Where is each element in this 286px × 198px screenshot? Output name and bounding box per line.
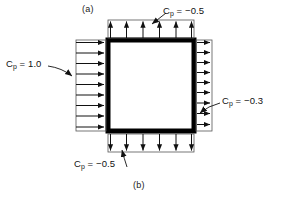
figure-canvas: (a) (b) Cp = −0.5 Cp = −0.3 Cp = −0.5 Cp… [0,0,286,198]
cp-label-roof-bottom: Cp = −0.5 [74,158,115,170]
cp-label-leeward: Cp = −0.3 [222,95,263,107]
roof-top-pressure-zone [108,20,194,38]
cp-symbol: C [163,5,170,16]
cp-symbol: C [222,95,229,106]
leader-roof-bottom [122,150,127,167]
cp-symbol: C [74,158,81,169]
cp-value: = 1.0 [17,58,42,69]
leader-leeward [200,103,220,113]
cp-value: = −0.3 [233,95,263,106]
roof-bottom-pressure-zone [108,134,194,152]
cp-label-windward: Cp = 1.0 [6,58,42,70]
cp-label-roof-top: Cp = −0.5 [163,5,204,17]
cp-symbol: C [6,58,13,69]
cp-value: = −0.5 [174,5,204,16]
windward-pressure-zone [76,40,106,131]
figure-caption-a: (a) [82,4,94,14]
figure-caption-b: (b) [133,180,145,190]
leader-windward [48,66,72,76]
leeward-pressure-zone [196,40,212,131]
building-plan [108,40,194,131]
cp-value: = −0.5 [85,158,115,169]
